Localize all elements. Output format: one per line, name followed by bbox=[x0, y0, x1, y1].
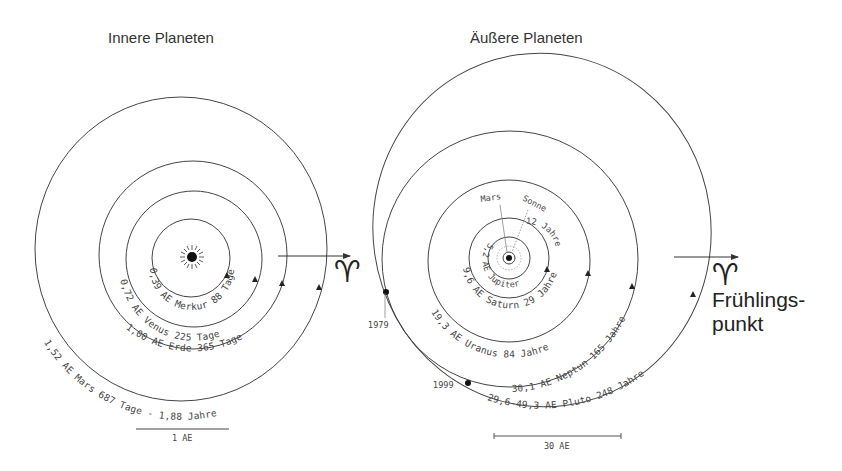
year-1999: 1999 bbox=[433, 380, 454, 390]
label-saturn: 9,6 AE Saturn 29 Jahre bbox=[461, 266, 559, 310]
aries-icon-outer: ♈ bbox=[712, 257, 739, 292]
direction-arrowheads bbox=[224, 272, 322, 290]
orbit-mars bbox=[35, 97, 327, 401]
label-merkur: 0,39 AE Merkur 88 Tage bbox=[148, 267, 236, 312]
inner-planets-panel: Innere Planeten 0,39 AE Merkur bbox=[35, 29, 361, 443]
mars-leader bbox=[500, 205, 507, 252]
label-uranus: 19,3 AE Uranus 84 Jahre bbox=[429, 307, 550, 360]
label-jupiter: 5,2 AE Jupiter bbox=[480, 242, 520, 290]
scale-label-1ae: 1 AE bbox=[172, 433, 192, 443]
year-1979: 1979 bbox=[368, 320, 389, 330]
vernal-label-line1: Frühlings- bbox=[712, 288, 805, 311]
marker-1999 bbox=[465, 380, 471, 386]
inner-title: Innere Planeten bbox=[108, 29, 214, 46]
outer-title: Äußere Planeten bbox=[470, 29, 583, 46]
outer-planets-panel: Äußere Planeten Mars Sonne 5,2 AE Jupite… bbox=[350, 29, 805, 451]
direction-arrowheads-outer bbox=[544, 266, 696, 297]
vernal-label-line2: punkt bbox=[712, 312, 764, 335]
sun-dot-icon bbox=[506, 255, 512, 261]
scale-bar-30ae bbox=[494, 433, 621, 439]
marker-1979 bbox=[383, 289, 389, 295]
aries-icon: ♈ bbox=[334, 254, 361, 289]
label-mars-outer: Mars bbox=[480, 191, 502, 204]
label-jupiter-period: 12 Jahre bbox=[526, 216, 564, 248]
scale-label-30ae: 30 AE bbox=[544, 441, 570, 451]
label-sonne: Sonne bbox=[521, 193, 548, 214]
sun-icon bbox=[180, 245, 204, 269]
solar-system-diagram: Innere Planeten 0,39 AE Merkur bbox=[0, 0, 842, 471]
